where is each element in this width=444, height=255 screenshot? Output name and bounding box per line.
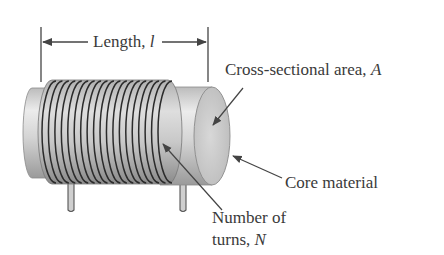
cross-section-label: Cross-sectional area, A bbox=[225, 61, 381, 78]
turns-label: Number of turns, N bbox=[212, 207, 286, 251]
core-material-label: Core material bbox=[285, 174, 378, 191]
coil-winding bbox=[38, 80, 182, 184]
area-symbol: A bbox=[371, 60, 381, 79]
core-end-cap bbox=[194, 87, 230, 185]
length-label-text: Length, bbox=[93, 32, 150, 51]
cross-section-label-text: Cross-sectional area, bbox=[225, 60, 371, 79]
turns-label-line1: Number of bbox=[212, 207, 286, 229]
length-label: Length, l bbox=[93, 33, 154, 50]
length-symbol: l bbox=[150, 32, 155, 51]
core-material-label-text: Core material bbox=[285, 173, 378, 192]
turns-label-line2: turns, bbox=[212, 230, 255, 249]
turns-symbol: N bbox=[255, 230, 266, 249]
